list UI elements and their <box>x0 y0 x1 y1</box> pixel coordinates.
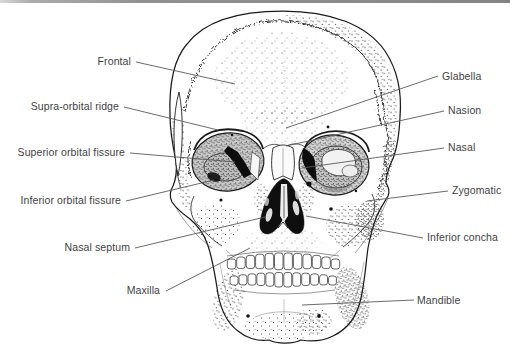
label-supra-orbital-ridge: Supra-orbital ridge <box>31 100 119 113</box>
teeth-upper <box>227 253 339 270</box>
mental-foramen-left <box>246 314 250 318</box>
label-nasal-septum: Nasal septum <box>65 241 130 254</box>
label-frontal: Frontal <box>98 55 131 68</box>
label-nasion: Nasion <box>448 104 481 117</box>
mental-foramen-right <box>317 314 321 318</box>
label-superior-orbital-fissure: Superior orbital fissure <box>18 146 125 159</box>
label-inferior-orbital-fissure: Inferior orbital fissure <box>21 194 121 207</box>
label-glabella: Glabella <box>442 70 481 83</box>
label-nasal: Nasal <box>448 141 475 154</box>
label-mandible: Mandible <box>417 294 460 307</box>
label-zygomatic: Zygomatic <box>452 184 501 197</box>
nasal-bones <box>272 145 295 180</box>
label-maxilla: Maxilla <box>127 284 160 297</box>
label-inferior-concha: Inferior concha <box>427 231 498 244</box>
figure-skull-anterior: Frontal Supra-orbital ridge Superior orb… <box>0 0 510 357</box>
teeth-lower <box>230 273 336 288</box>
